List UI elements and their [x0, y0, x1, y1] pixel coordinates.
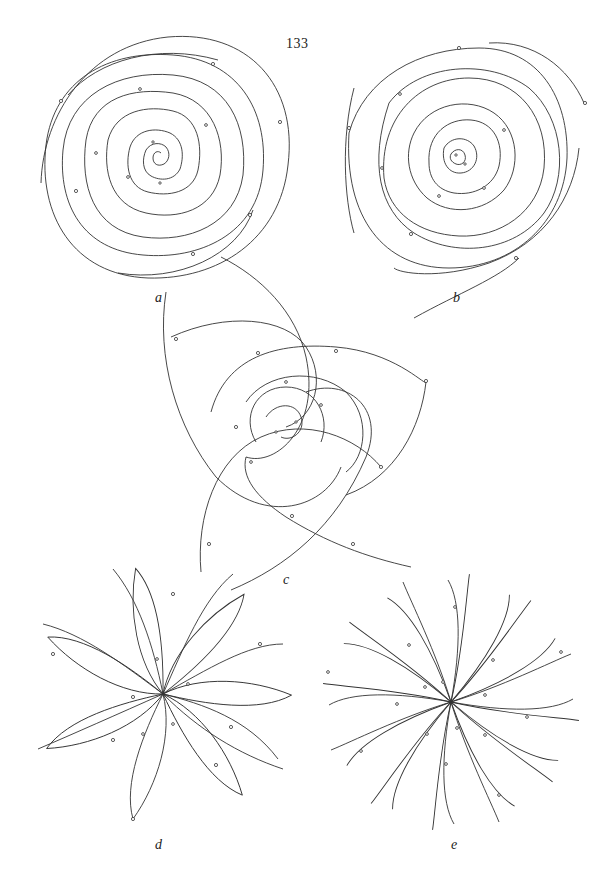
rosette-e-drawing	[0, 0, 603, 883]
figure-label-e: e	[451, 837, 457, 853]
